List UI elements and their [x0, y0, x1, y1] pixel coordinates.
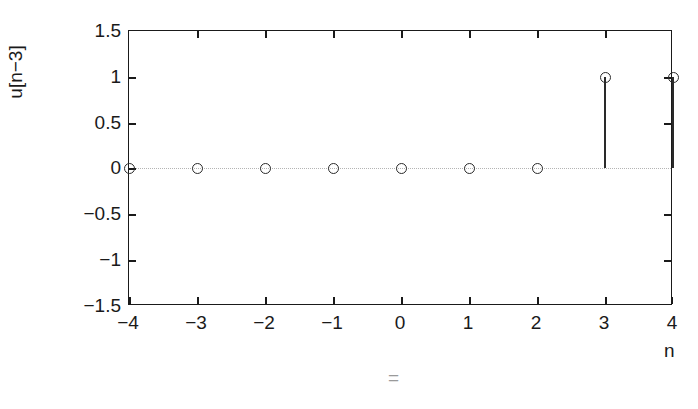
data-point-marker[interactable]: [464, 163, 475, 174]
y-tick-mark-right: [664, 214, 671, 216]
x-tick-label: 3: [599, 313, 610, 332]
y-axis-label: u[n−3]: [6, 45, 25, 98]
x-tick-mark: [537, 297, 539, 304]
y-tick-mark-right: [664, 123, 671, 125]
y-tick-mark: [129, 123, 136, 125]
x-tick-mark: [197, 297, 199, 304]
data-point-marker[interactable]: [396, 163, 407, 174]
data-point-marker[interactable]: [124, 163, 135, 174]
x-tick-mark: [333, 297, 335, 304]
x-tick-mark-top: [537, 31, 539, 38]
y-tick-label: 0: [110, 158, 121, 177]
x-tick-label: −1: [321, 313, 343, 332]
x-tick-mark: [401, 297, 403, 304]
x-tick-mark-top: [605, 31, 607, 38]
y-tick-label: 0.5: [95, 113, 121, 132]
x-tick-mark-top: [265, 31, 267, 38]
x-tick-label: 4: [667, 313, 678, 332]
y-tick-mark-right: [664, 260, 671, 262]
data-point-marker[interactable]: [328, 163, 339, 174]
data-point-marker[interactable]: [532, 163, 543, 174]
x-tick-label: −2: [253, 313, 275, 332]
x-tick-label: −3: [185, 313, 207, 332]
data-point-marker[interactable]: [600, 72, 611, 83]
figure-canvas: u[n−3] 1.5 1 0.5 0 −0.5 −1 −1.5 −4 −3 −2…: [0, 0, 698, 409]
x-tick-mark-top: [333, 31, 335, 38]
x-tick-mark: [469, 297, 471, 304]
y-tick-label: 1.5: [95, 21, 121, 40]
x-tick-mark: [605, 297, 607, 304]
data-point-marker[interactable]: [192, 163, 203, 174]
stem-line: [672, 77, 673, 168]
x-tick-mark-top: [197, 31, 199, 38]
x-tick-mark: [265, 297, 267, 304]
x-tick-label: 0: [395, 313, 406, 332]
x-tick-mark-top: [469, 31, 471, 38]
y-tick-label: −0.5: [83, 204, 121, 223]
y-tick-mark: [129, 214, 136, 216]
stem-line: [604, 77, 605, 168]
x-tick-label: 2: [531, 313, 542, 332]
x-tick-mark: [129, 297, 131, 304]
y-tick-mark: [129, 260, 136, 262]
y-tick-label: −1.5: [83, 296, 121, 315]
x-tick-label: −4: [117, 313, 139, 332]
y-tick-label: 1: [110, 67, 121, 86]
x-axis-label: n: [664, 341, 675, 360]
x-tick-label: 1: [463, 313, 474, 332]
plot-area: [128, 30, 672, 305]
data-point-marker[interactable]: [260, 163, 271, 174]
y-tick-mark: [129, 77, 136, 79]
y-tick-label: −1: [99, 250, 121, 269]
data-point-marker[interactable]: [668, 72, 679, 83]
x-tick-mark-top: [401, 31, 403, 38]
x-tick-mark: [671, 297, 673, 304]
stray-equals-glyph: =: [388, 368, 399, 387]
